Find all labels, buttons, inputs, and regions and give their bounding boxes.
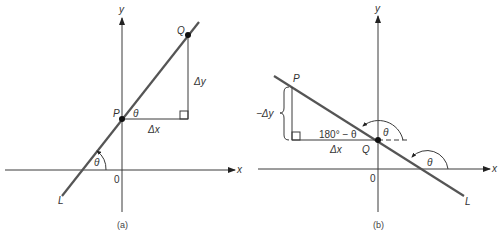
line-l bbox=[274, 76, 464, 196]
right-angle-marker bbox=[180, 111, 188, 119]
angle-at-q-label: θ bbox=[383, 127, 389, 138]
point-q-label: Q bbox=[177, 25, 185, 36]
origin-label: 0 bbox=[114, 174, 120, 185]
line-l-label: L bbox=[58, 195, 64, 206]
neg-delta-y-brace bbox=[280, 87, 289, 140]
x-axis-label: x bbox=[491, 163, 498, 174]
delta-x-label: Δx bbox=[329, 144, 343, 155]
supplement-angle-label: 180° − θ bbox=[319, 129, 357, 140]
delta-y-label: Δy bbox=[193, 76, 207, 87]
point-p-label: P bbox=[113, 108, 120, 119]
point-q bbox=[185, 32, 191, 38]
point-q-label: Q bbox=[362, 144, 370, 155]
panel-a: x y 0 L P Q θ Δx Δy θ (a) bbox=[5, 4, 243, 230]
angle-at-p-label: θ bbox=[133, 108, 139, 119]
right-angle-marker bbox=[292, 132, 300, 140]
caption-a: (a) bbox=[117, 220, 128, 230]
y-axis-label: y bbox=[118, 4, 125, 15]
line-l-label: L bbox=[465, 196, 471, 207]
point-q bbox=[375, 137, 381, 143]
x-axis-label: x bbox=[236, 164, 243, 175]
angle-at-x-axis-label: θ bbox=[94, 157, 100, 168]
point-p bbox=[119, 116, 125, 122]
point-p-label: P bbox=[293, 73, 300, 84]
caption-b: (b) bbox=[373, 220, 384, 230]
neg-delta-y-label: −Δy bbox=[256, 108, 275, 119]
angle-at-x-axis-label: θ bbox=[427, 157, 433, 168]
delta-x-label: Δx bbox=[147, 124, 161, 135]
origin-label: 0 bbox=[370, 173, 376, 184]
panel-b: x y 0 L −Δy P Q 180° − θ Δx θ θ (b) bbox=[256, 3, 498, 230]
slope-diagram: x y 0 L P Q θ Δx Δy θ (a) x y 0 L bbox=[0, 0, 498, 235]
y-axis-label: y bbox=[374, 3, 381, 14]
